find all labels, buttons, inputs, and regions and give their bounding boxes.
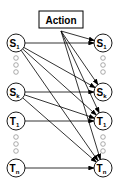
- node-SkR: Sk: [94, 83, 112, 101]
- action-box: Action: [39, 11, 83, 28]
- ellipsis-dot: [14, 63, 19, 68]
- ellipsis-dot: [14, 135, 19, 140]
- edge-S1L-TnR: [21, 50, 98, 160]
- ellipsis-dot: [14, 142, 19, 147]
- node-T1R: T1: [94, 112, 112, 130]
- ellipsis-dot: [101, 135, 106, 140]
- node-SkL: Sk: [7, 83, 25, 101]
- ellipsis-dot: [101, 70, 106, 75]
- ellipsis-dot: [14, 56, 19, 61]
- node-TnR: Tn: [94, 159, 112, 177]
- node-S1R: S1: [94, 34, 112, 52]
- node-S1L: S1: [7, 34, 25, 52]
- node-T1L: T1: [7, 112, 25, 130]
- edge-Action-SkR: [61, 31, 98, 85]
- action-label: Action: [45, 15, 76, 26]
- ellipsis-dot: [101, 63, 106, 68]
- ellipsis-dot: [101, 149, 106, 154]
- transition-diagram: S1SkT1TnS1SkT1Tn Action: [0, 0, 118, 192]
- node-TnL: Tn: [7, 159, 25, 177]
- edge-SkL-TnR: [23, 98, 96, 162]
- edges: [21, 31, 100, 168]
- edge-Action-S1R: [61, 31, 94, 41]
- ellipsis-dot: [14, 70, 19, 75]
- ellipsis-dot: [101, 56, 106, 61]
- ellipsis-dots: [14, 56, 106, 154]
- ellipsis-dot: [14, 149, 19, 154]
- ellipsis-dot: [101, 142, 106, 147]
